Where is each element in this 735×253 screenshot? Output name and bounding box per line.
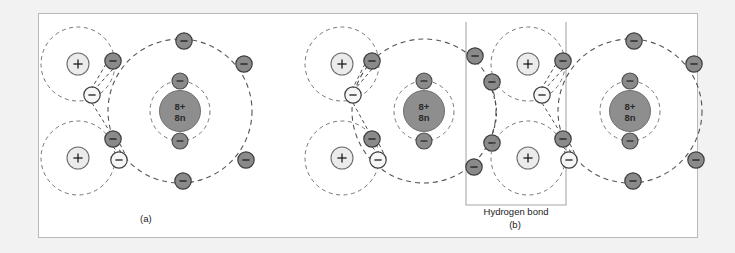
caption-b: (b) [509, 219, 521, 230]
caption-a: (a) [140, 213, 152, 224]
water-hydrogen-bond-diagram: 8+ 8n [0, 0, 735, 253]
figure-frame [39, 14, 698, 238]
figure-root: 8+ 8n [0, 0, 735, 253]
hydrogen-bond-label: Hydrogen bond [484, 206, 549, 217]
